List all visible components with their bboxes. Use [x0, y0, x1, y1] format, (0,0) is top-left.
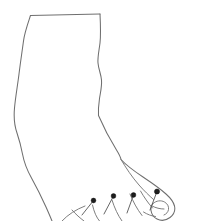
- acupoint-dot[interactable]: [154, 189, 159, 194]
- acupoint-dot[interactable]: [91, 198, 96, 203]
- canvas-background: [0, 0, 198, 221]
- figure-root: point on fifth toepoint on fourth toepoi…: [0, 0, 198, 221]
- acupoint-dot[interactable]: [111, 194, 116, 199]
- foot-diagram-svg: point on fifth toepoint on fourth toepoi…: [0, 0, 198, 221]
- acupoint-dot[interactable]: [131, 193, 136, 198]
